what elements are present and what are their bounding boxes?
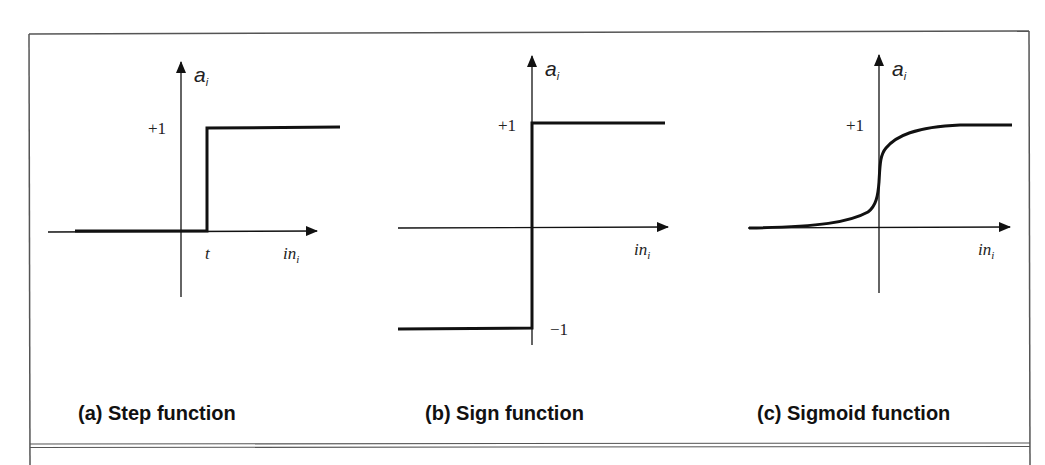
minus-one-label: −1 [550, 320, 568, 339]
figure-frame [29, 31, 1030, 465]
plus-one-label: +1 [846, 116, 864, 135]
caption-step-function: (a) Step function [78, 402, 236, 425]
sigmoid-curve [749, 125, 1012, 228]
plus-one-label: +1 [148, 119, 166, 138]
caption-sign-function: (b) Sign function [425, 402, 584, 425]
x-axis-label: ini [978, 240, 994, 261]
threshold-t-label: t [205, 244, 211, 263]
figure-canvas: +1 t ai ini +1 −1 ai ini +1 ai ini [0, 0, 1045, 465]
sigmoid-function-plot: +1 ai ini [748, 55, 1012, 293]
sign-curve [398, 123, 665, 329]
y-axis-label: ai [892, 57, 907, 82]
y-axis-label: ai [545, 57, 560, 82]
plus-one-label: +1 [498, 116, 516, 135]
step-curve [75, 127, 340, 231]
x-axis-label: ini [283, 244, 299, 265]
caption-sigmoid-function: (c) Sigmoid function [757, 402, 950, 425]
sign-function-plot: +1 −1 ai ini [398, 56, 668, 345]
x-axis-label: ini [634, 240, 650, 261]
step-function-plot: +1 t ai ini [48, 62, 340, 297]
y-axis-label: ai [194, 63, 209, 88]
